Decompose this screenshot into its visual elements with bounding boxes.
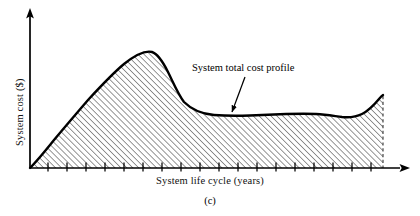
- axis-arrow-right-icon: [400, 164, 411, 172]
- figure-caption: (c): [0, 195, 420, 206]
- figure-container: System cost ($) System life cycle (years…: [0, 0, 420, 216]
- curve-annotation-label: System total cost profile: [192, 62, 294, 73]
- y-axis-label: System cost ($): [14, 26, 25, 146]
- x-axis-label: System life cycle (years): [0, 175, 420, 186]
- annotation-arrow-icon: [232, 77, 245, 112]
